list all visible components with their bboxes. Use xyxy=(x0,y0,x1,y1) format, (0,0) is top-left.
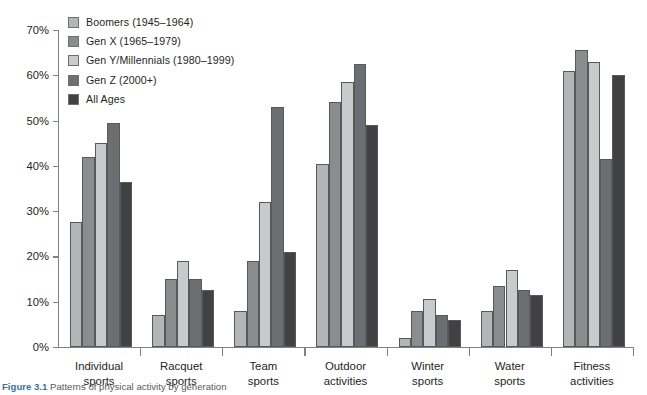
bar[interactable] xyxy=(481,311,493,347)
category-label-line: Winter xyxy=(387,359,469,374)
x-axis-category-tick xyxy=(633,347,634,356)
y-axis-tick-label: 30% xyxy=(27,205,49,217)
bar[interactable] xyxy=(177,261,189,347)
category-label-line: Outdoor xyxy=(304,359,386,374)
bar[interactable] xyxy=(493,286,505,347)
bar-group xyxy=(469,30,551,347)
bar[interactable] xyxy=(588,62,600,347)
x-axis-line xyxy=(58,347,633,348)
bar[interactable] xyxy=(259,202,271,347)
bar[interactable] xyxy=(316,164,328,347)
bar[interactable] xyxy=(284,252,296,347)
bar[interactable] xyxy=(82,157,94,347)
legend-item-label: Boomers (1945–1964) xyxy=(86,17,193,28)
bar[interactable] xyxy=(234,311,246,347)
category-label-line: Water xyxy=(469,359,551,374)
category-label-line: Individual xyxy=(58,359,140,374)
bar[interactable] xyxy=(506,270,518,347)
x-axis-category-tick xyxy=(222,347,223,356)
bar[interactable] xyxy=(354,64,366,347)
bar-group xyxy=(387,30,469,347)
bar-group xyxy=(551,30,633,347)
bar[interactable] xyxy=(189,279,201,347)
bar[interactable] xyxy=(612,75,624,347)
bar[interactable] xyxy=(366,125,378,347)
category-label-line: sports xyxy=(222,374,304,389)
x-axis-category-label: Wintersports xyxy=(387,359,469,388)
bar[interactable] xyxy=(95,143,107,347)
bar[interactable] xyxy=(411,311,423,347)
bar[interactable] xyxy=(600,159,612,347)
legend-swatch-icon xyxy=(68,17,79,28)
x-axis-category-label: Fitnessactivities xyxy=(551,359,633,388)
y-axis-tick-label: 20% xyxy=(27,250,49,262)
x-axis-category-tick xyxy=(387,347,388,356)
bar[interactable] xyxy=(202,290,214,347)
category-label-line: Fitness xyxy=(551,359,633,374)
x-axis-category-tick xyxy=(551,347,552,356)
x-axis-category-tick xyxy=(140,347,141,356)
bar[interactable] xyxy=(530,295,542,347)
bar[interactable] xyxy=(120,182,132,347)
category-label-line: sports xyxy=(469,374,551,389)
category-label-line: activities xyxy=(304,374,386,389)
y-axis-tick-label: 60% xyxy=(27,69,49,81)
bar[interactable] xyxy=(152,315,164,347)
bar[interactable] xyxy=(247,261,259,347)
x-axis-category-tick xyxy=(304,347,305,356)
category-label-line: Team xyxy=(222,359,304,374)
bar-group xyxy=(222,30,304,347)
y-axis-tick-label: 70% xyxy=(27,24,49,36)
bar[interactable] xyxy=(436,315,448,347)
y-axis-tick-label: 50% xyxy=(27,115,49,127)
category-label-line: Racquet xyxy=(140,359,222,374)
y-axis-tick xyxy=(53,347,58,348)
bar[interactable] xyxy=(271,107,283,347)
category-label-line: sports xyxy=(387,374,469,389)
category-label-line: activities xyxy=(551,374,633,389)
bar-group xyxy=(140,30,222,347)
bar-chart: Boomers (1945–1964)Gen X (1965–1979)Gen … xyxy=(0,0,647,395)
x-axis-category-label: Watersports xyxy=(469,359,551,388)
bar[interactable] xyxy=(329,102,341,347)
x-axis-category-label: Teamsports xyxy=(222,359,304,388)
x-axis-category-tick xyxy=(469,347,470,356)
plot-area: 0%10%20%30%40%50%60%70%IndividualsportsR… xyxy=(58,30,633,347)
bar[interactable] xyxy=(399,338,411,347)
figure-caption: Figure 3.1 Patterns of physical activity… xyxy=(2,381,227,393)
x-axis-category-label: Outdooractivities xyxy=(304,359,386,388)
bar-group xyxy=(304,30,386,347)
bar[interactable] xyxy=(107,123,119,347)
y-axis-tick-label: 0% xyxy=(33,341,49,353)
y-axis-tick-label: 10% xyxy=(27,296,49,308)
figure-caption-text: Patterns of physical activity by generat… xyxy=(50,381,227,392)
bar[interactable] xyxy=(70,222,82,347)
y-axis-tick-label: 40% xyxy=(27,160,49,172)
bar[interactable] xyxy=(341,82,353,347)
bar[interactable] xyxy=(165,279,177,347)
figure-number: Figure 3.1 xyxy=(2,381,47,392)
bar[interactable] xyxy=(518,290,530,347)
bar[interactable] xyxy=(448,320,460,347)
bar[interactable] xyxy=(575,50,587,347)
bar-group xyxy=(58,30,140,347)
bar[interactable] xyxy=(423,299,435,347)
bar[interactable] xyxy=(563,71,575,347)
